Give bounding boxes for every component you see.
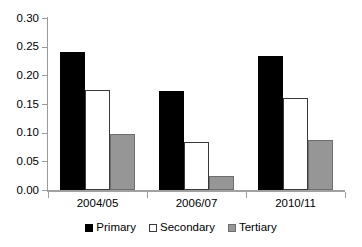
bar-primary-2010-11 bbox=[258, 56, 283, 190]
legend-item-tertiary: Tertiary bbox=[228, 222, 277, 234]
y-axis-tick: 0.15 bbox=[42, 104, 47, 105]
y-axis-tick-label: 0.20 bbox=[17, 70, 39, 82]
white-square-icon bbox=[149, 224, 157, 232]
x-axis-label-2006-07: 2006/07 bbox=[147, 198, 246, 210]
legend-item-label: Secondary bbox=[160, 222, 215, 234]
x-axis-label-2004-05: 2004/05 bbox=[48, 198, 147, 210]
gray-square-icon bbox=[228, 224, 236, 232]
y-axis-tick: 0.10 bbox=[42, 133, 47, 134]
bar-tertiary-2006-07 bbox=[209, 176, 234, 190]
y-axis-tick: 0.20 bbox=[42, 75, 47, 76]
x-axis-line bbox=[47, 190, 345, 192]
y-axis-tick-label: 0.00 bbox=[17, 185, 39, 197]
y-axis-tick-label: 0.10 bbox=[17, 127, 39, 139]
y-axis-tick: 0.30 bbox=[42, 18, 47, 19]
y-axis-tick: 0.25 bbox=[42, 47, 47, 48]
y-axis-tick: 0.05 bbox=[42, 161, 47, 162]
y-axis-tick-label: 0.15 bbox=[17, 99, 39, 111]
legend-item-label: Tertiary bbox=[239, 222, 277, 234]
bar-secondary-2010-11 bbox=[283, 98, 308, 190]
bar-primary-2004-05 bbox=[60, 52, 85, 190]
y-axis-tick-label: 0.25 bbox=[17, 41, 39, 53]
black-square-icon bbox=[85, 224, 93, 232]
legend-item-label: Primary bbox=[96, 222, 136, 234]
bar-primary-2006-07 bbox=[159, 91, 184, 190]
bar-tertiary-2010-11 bbox=[308, 140, 333, 190]
legend-item-primary: Primary bbox=[85, 222, 136, 234]
chart-legend: PrimarySecondaryTertiary bbox=[0, 222, 362, 234]
bar-secondary-2004-05 bbox=[85, 90, 110, 190]
bar-secondary-2006-07 bbox=[184, 142, 209, 190]
legend-item-secondary: Secondary bbox=[149, 222, 215, 234]
bar-chart: 0.000.050.100.150.200.250.30 2004/052006… bbox=[0, 0, 362, 247]
plot-area bbox=[48, 18, 345, 190]
x-axis-tick bbox=[345, 192, 346, 198]
bar-tertiary-2004-05 bbox=[110, 134, 135, 190]
y-axis-tick-label: 0.30 bbox=[17, 13, 39, 25]
y-axis-tick-label: 0.05 bbox=[17, 156, 39, 168]
x-axis-label-2010-11: 2010/11 bbox=[246, 198, 345, 210]
